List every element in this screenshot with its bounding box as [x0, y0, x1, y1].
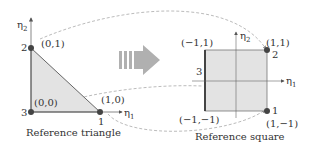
corner-top-left-coord: (−1,1) — [181, 37, 213, 48]
node-3-coord: (0,0) — [34, 97, 58, 108]
node-2-coord: (0,1) — [41, 38, 65, 49]
node-1-coord: (1,−1) — [266, 118, 298, 129]
edge-3-id: 3 — [196, 66, 202, 77]
axis-eta2-label: η2 — [240, 30, 250, 44]
axis-eta1-label: η1 — [286, 75, 296, 89]
triangle-caption: Reference triangle — [26, 127, 121, 138]
transform-arrow-icon — [119, 45, 160, 75]
axis-eta2-label: η2 — [17, 19, 27, 33]
node-3-id: 3 — [21, 107, 27, 118]
reference-square: η2 η1 (−1,1) (1,1) 2 3 (−1,−1) 1 (1,−1) … — [179, 30, 298, 142]
node-2-id: 2 — [272, 49, 278, 60]
axis-eta1-label: η1 — [124, 107, 134, 121]
node-2-dot — [28, 45, 34, 51]
node-2-coord: (1,1) — [266, 37, 290, 48]
mapping-diagram: η2 η1 2 (0,1) 3 (0,0) 1 (1,0) Reference … — [0, 0, 310, 152]
node-1-id: 1 — [98, 116, 104, 127]
node-1-id: 1 — [272, 105, 278, 116]
reference-triangle: η2 η1 2 (0,1) 3 (0,0) 1 (1,0) Reference … — [17, 18, 134, 138]
node-1-dot — [97, 109, 103, 115]
square-caption: Reference square — [195, 131, 285, 142]
node-2-id: 2 — [21, 42, 27, 53]
curve-node2-to-square-top — [40, 11, 266, 49]
node-1-dot — [264, 108, 270, 114]
node-3-dot — [28, 109, 34, 115]
node-1-coord: (1,0) — [101, 94, 125, 105]
corner-bottom-left-coord: (−1,−1) — [179, 114, 220, 125]
